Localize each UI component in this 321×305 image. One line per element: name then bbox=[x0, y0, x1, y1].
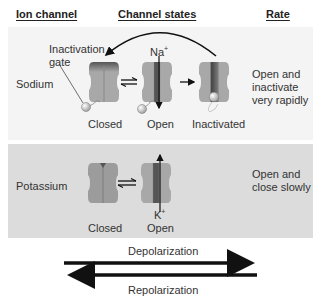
k-channel-closed bbox=[88, 163, 118, 203]
k-charge: + bbox=[161, 208, 165, 215]
depolarization-label: Depolarization bbox=[128, 245, 198, 258]
sodium-label: Sodium bbox=[16, 78, 53, 91]
inactivation-gate-ball bbox=[82, 103, 91, 112]
potassium-rate-line2: close slowly bbox=[252, 181, 311, 194]
na-equilibrium-arrows bbox=[121, 78, 137, 87]
potassium-rate: Open and close slowly bbox=[252, 168, 311, 194]
na-ion-label: Na+ bbox=[150, 42, 168, 59]
k-state-open: Open bbox=[147, 222, 174, 235]
na-channel-open bbox=[142, 62, 172, 102]
na-state-closed: Closed bbox=[88, 118, 122, 131]
na-charge: + bbox=[164, 45, 168, 52]
potassium-rate-line1: Open and bbox=[252, 168, 311, 181]
k-equilibrium-arrows bbox=[118, 179, 136, 188]
inactivation-gate-ball-plugged bbox=[209, 92, 219, 102]
sodium-rate-line2: inactivate bbox=[252, 81, 308, 94]
inactivation-gate-label: Inactivation gate bbox=[49, 43, 105, 69]
gate-label-line1: Inactivation bbox=[49, 43, 105, 56]
gate-leader-line bbox=[59, 64, 83, 103]
k-channel-open bbox=[141, 163, 171, 203]
na-state-open: Open bbox=[147, 118, 174, 131]
sodium-rate-line1: Open and bbox=[252, 68, 308, 81]
k-ion-label: K+ bbox=[154, 205, 165, 222]
na-state-inactivated: Inactivated bbox=[192, 118, 245, 131]
gate-label-line2: gate bbox=[49, 56, 105, 69]
repolarization-label: Repolarization bbox=[128, 284, 198, 297]
sodium-rate-line3: very rapidly bbox=[252, 94, 308, 107]
potassium-label: Potassium bbox=[16, 180, 67, 193]
sodium-rate: Open and inactivate very rapidly bbox=[252, 68, 308, 107]
na-symbol: Na bbox=[150, 46, 164, 58]
inactivation-gate-ball-open bbox=[138, 105, 147, 114]
k-state-closed: Closed bbox=[88, 222, 122, 235]
